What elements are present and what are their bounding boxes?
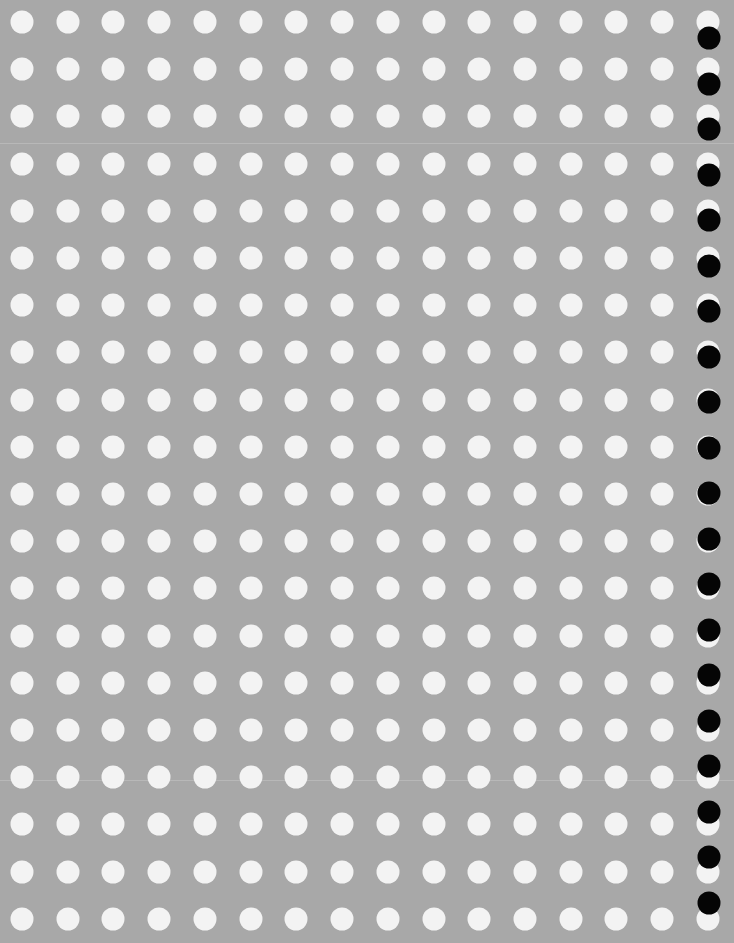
white-hole-dot xyxy=(239,813,262,836)
white-hole-dot xyxy=(102,58,125,81)
white-hole-dot xyxy=(285,577,308,600)
white-hole-dot xyxy=(559,58,582,81)
white-hole-dot xyxy=(193,530,216,553)
white-hole-dot xyxy=(605,530,628,553)
white-hole-dot xyxy=(148,624,171,647)
black-edge-marker-dot xyxy=(698,800,721,823)
white-hole-dot xyxy=(102,483,125,506)
white-hole-dot xyxy=(193,435,216,458)
white-hole-dot xyxy=(11,530,34,553)
white-hole-dot xyxy=(559,435,582,458)
white-hole-dot xyxy=(56,105,79,128)
white-hole-dot xyxy=(102,813,125,836)
white-hole-dot xyxy=(651,719,674,742)
white-hole-dot xyxy=(605,860,628,883)
white-hole-dot xyxy=(422,624,445,647)
white-hole-dot xyxy=(651,152,674,175)
white-hole-dot xyxy=(56,341,79,364)
white-hole-dot xyxy=(468,577,491,600)
white-hole-dot xyxy=(11,435,34,458)
white-hole-dot xyxy=(239,530,262,553)
white-hole-dot xyxy=(468,11,491,34)
white-hole-dot xyxy=(148,530,171,553)
white-hole-dot xyxy=(559,766,582,789)
white-hole-dot xyxy=(239,624,262,647)
white-hole-dot xyxy=(376,294,399,317)
white-hole-dot xyxy=(468,388,491,411)
white-hole-dot xyxy=(102,435,125,458)
white-hole-dot xyxy=(56,294,79,317)
white-hole-dot xyxy=(239,341,262,364)
white-hole-dot xyxy=(651,294,674,317)
white-hole-dot xyxy=(239,294,262,317)
white-hole-dot xyxy=(514,907,537,930)
white-hole-dot xyxy=(102,105,125,128)
white-hole-dot xyxy=(651,435,674,458)
white-hole-dot xyxy=(651,671,674,694)
white-hole-dot xyxy=(56,388,79,411)
white-hole-dot xyxy=(11,907,34,930)
white-hole-dot xyxy=(285,530,308,553)
white-hole-dot xyxy=(285,483,308,506)
white-hole-dot xyxy=(56,483,79,506)
white-hole-dot xyxy=(56,719,79,742)
white-hole-dot xyxy=(651,813,674,836)
white-hole-dot xyxy=(148,719,171,742)
white-hole-dot xyxy=(422,199,445,222)
white-hole-dot xyxy=(422,388,445,411)
white-hole-dot xyxy=(148,341,171,364)
white-hole-dot xyxy=(514,813,537,836)
white-hole-dot xyxy=(605,152,628,175)
white-hole-dot xyxy=(331,671,354,694)
white-hole-dot xyxy=(376,58,399,81)
white-hole-dot xyxy=(56,11,79,34)
white-hole-dot xyxy=(559,483,582,506)
white-hole-dot xyxy=(376,11,399,34)
white-hole-dot xyxy=(331,577,354,600)
white-hole-dot xyxy=(102,719,125,742)
white-hole-dot xyxy=(193,813,216,836)
white-hole-dot xyxy=(193,341,216,364)
white-hole-dot xyxy=(376,247,399,270)
white-hole-dot xyxy=(514,624,537,647)
black-edge-marker-dot xyxy=(698,573,721,596)
white-hole-dot xyxy=(376,813,399,836)
white-hole-dot xyxy=(239,247,262,270)
white-hole-dot xyxy=(285,294,308,317)
black-edge-marker-dot xyxy=(698,755,721,778)
white-hole-dot xyxy=(605,199,628,222)
black-edge-marker-dot xyxy=(698,254,721,277)
white-hole-dot xyxy=(193,294,216,317)
white-hole-dot xyxy=(239,199,262,222)
white-hole-dot xyxy=(148,152,171,175)
white-hole-dot xyxy=(331,766,354,789)
white-hole-dot xyxy=(285,671,308,694)
white-hole-dot xyxy=(376,435,399,458)
white-hole-dot xyxy=(11,719,34,742)
white-hole-dot xyxy=(514,199,537,222)
white-hole-dot xyxy=(514,341,537,364)
white-hole-dot xyxy=(239,577,262,600)
white-hole-dot xyxy=(559,247,582,270)
white-hole-dot xyxy=(56,624,79,647)
white-hole-dot xyxy=(331,624,354,647)
white-hole-dot xyxy=(605,577,628,600)
white-hole-dot xyxy=(285,152,308,175)
white-hole-dot xyxy=(651,388,674,411)
white-hole-dot xyxy=(422,341,445,364)
white-hole-dot xyxy=(148,766,171,789)
white-hole-dot xyxy=(514,294,537,317)
white-hole-dot xyxy=(11,294,34,317)
white-hole-dot xyxy=(11,58,34,81)
white-hole-dot xyxy=(193,671,216,694)
white-hole-dot xyxy=(605,341,628,364)
white-hole-dot xyxy=(559,624,582,647)
white-hole-dot xyxy=(331,388,354,411)
white-hole-dot xyxy=(148,435,171,458)
white-hole-dot xyxy=(422,152,445,175)
white-hole-dot xyxy=(376,671,399,694)
white-hole-dot xyxy=(11,624,34,647)
white-hole-dot xyxy=(56,766,79,789)
white-hole-dot xyxy=(193,388,216,411)
white-hole-dot xyxy=(605,766,628,789)
